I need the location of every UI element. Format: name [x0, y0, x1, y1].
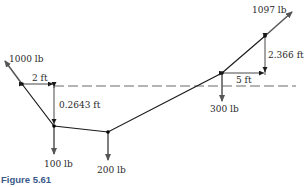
label-1097lb: 1097 lb: [252, 5, 287, 15]
force-arrow-1000lb: [5, 61, 22, 84]
label-2ft: 2 ft: [32, 73, 48, 83]
joint-b: [52, 124, 56, 128]
label-100lb: 100 lb: [44, 159, 73, 169]
force-arrow-1097lb: [265, 12, 292, 36]
label-2.366ft: 2.366 ft: [268, 50, 304, 60]
joint-d: [220, 71, 224, 75]
cable-diagram: 1000 lb 1097 lb 2 ft 0.2643 ft 5 ft 2.36…: [0, 0, 304, 187]
label-5ft: 5 ft: [236, 75, 252, 85]
figure-caption: Figure 5.61: [1, 174, 52, 185]
joint-c: [106, 130, 110, 134]
label-300lb: 300 lb: [210, 104, 239, 114]
label-1000lb: 1000 lb: [9, 54, 44, 64]
label-200lb: 200 lb: [97, 165, 126, 175]
joint-e: [263, 34, 267, 38]
label-0.2643ft: 0.2643 ft: [59, 100, 101, 110]
joint-a: [20, 82, 24, 86]
cable: [22, 36, 265, 132]
